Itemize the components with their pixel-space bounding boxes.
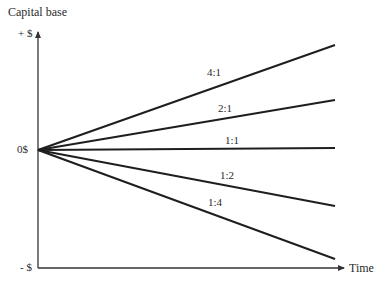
line-label-1-2: 1:2 <box>220 169 234 181</box>
line-4-1 <box>38 45 335 150</box>
y-tick-minus: - $ <box>20 261 32 273</box>
y-axis-title: Capital base <box>8 5 67 20</box>
line-2-1 <box>38 100 335 150</box>
y-tick-zero: 0$ <box>17 143 28 155</box>
y-tick-plus: + $ <box>18 27 32 39</box>
line-label-4-1: 4:1 <box>207 66 221 78</box>
line-1-1 <box>38 148 335 150</box>
chart-canvas <box>0 0 387 288</box>
x-axis-title: Time <box>349 261 374 276</box>
line-label-1-1: 1:1 <box>225 134 239 146</box>
line-label-2-1: 2:1 <box>218 102 232 114</box>
line-1-2 <box>38 150 335 206</box>
line-label-1-4: 1:4 <box>208 196 222 208</box>
line-1-4 <box>38 150 335 259</box>
